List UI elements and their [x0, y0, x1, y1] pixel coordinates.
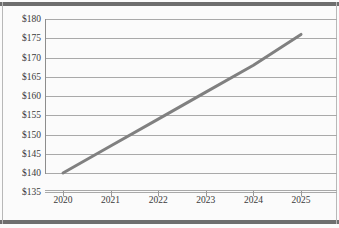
series-polyline	[63, 34, 301, 173]
chart-screenshot: $180$175$170$165$160$155$150$145$140$135…	[0, 0, 339, 228]
data-series-line	[0, 0, 339, 228]
